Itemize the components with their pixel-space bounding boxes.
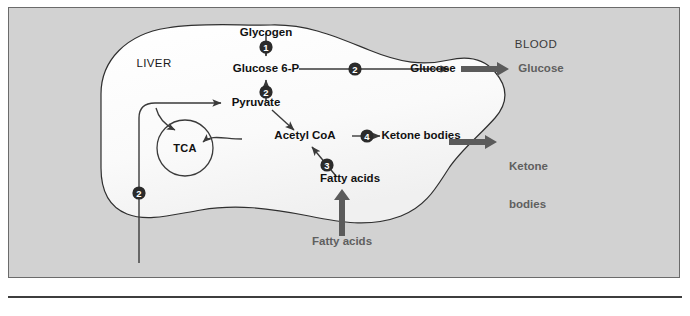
metabolite-glucose-6-phosphate: Glucose 6-P bbox=[233, 62, 299, 75]
liver-region-label: LIVER bbox=[136, 57, 171, 70]
metabolite-fatty-acids-blood: Fatty acids bbox=[312, 235, 372, 248]
bottom-divider bbox=[8, 296, 682, 298]
step-badge-3: 3 bbox=[320, 158, 333, 171]
tca-cycle-label: TCA bbox=[173, 142, 197, 154]
liver-outline bbox=[101, 25, 505, 223]
substrates-label: Amino acids, glycerol, lactate bbox=[104, 261, 176, 278]
metabolite-ketone-bodies-liver: Ketone bodies bbox=[381, 129, 460, 142]
metabolite-fatty-acids-liver: Fatty acids bbox=[320, 172, 380, 185]
svg-text:3: 3 bbox=[324, 160, 329, 171]
svg-text:2: 2 bbox=[136, 188, 141, 199]
svg-text:2: 2 bbox=[352, 64, 357, 75]
blood-region-label: BLOOD bbox=[515, 38, 557, 51]
step-badge-2-glucose: 2 bbox=[348, 62, 361, 75]
ketone-bodies-blood-line-2: bodies bbox=[509, 198, 548, 211]
metabolite-glycogen: Glycogen bbox=[240, 26, 292, 39]
step-badge-2-left: 2 bbox=[132, 186, 145, 199]
ketone-bodies-blood-line-1: Ketone bbox=[509, 160, 548, 173]
metabolite-ketone-bodies-blood: Ketone bodies bbox=[509, 134, 548, 237]
step-badge-1: 1 bbox=[259, 40, 272, 53]
metabolite-pyruvate: Pyruvate bbox=[232, 96, 281, 109]
metabolite-acetyl-coa: Acetyl CoA bbox=[274, 129, 335, 142]
figure-root: 1 2 2 2 3 4 LIVER bbox=[0, 0, 690, 316]
metabolite-glucose-blood: Glucose bbox=[518, 62, 563, 75]
step-badge-4: 4 bbox=[360, 129, 373, 142]
metabolite-glucose-liver: Glucose bbox=[410, 62, 455, 75]
svg-text:4: 4 bbox=[364, 131, 370, 142]
svg-text:1: 1 bbox=[263, 42, 269, 53]
diagram-panel: 1 2 2 2 3 4 LIVER bbox=[8, 7, 680, 278]
